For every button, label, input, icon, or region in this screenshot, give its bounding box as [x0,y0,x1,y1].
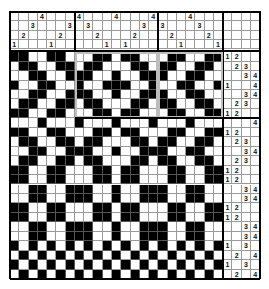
drawdown-cell [149,81,158,90]
drawdown-cell [195,175,204,184]
threading-cell: 4 [75,12,84,21]
drawdown-cell [38,109,47,118]
tieup-cell [232,12,241,21]
treadling-cell: 3 [242,241,251,250]
treadling-cell: 2 [232,213,241,222]
drawdown-cell [103,52,112,61]
drawdown-cell [103,147,112,156]
drawdown-cell [140,241,149,250]
drawdown-cell [186,81,195,90]
drawdown-cell [66,241,75,250]
threading-cell: 4 [186,12,195,21]
threading-cell [168,12,177,21]
drawdown-cell [158,194,167,203]
drawdown-cell [205,222,214,231]
drawdown-cell [84,99,93,108]
drawdown-cell [149,156,158,165]
drawdown-cell [38,222,47,231]
drawdown-cell [19,109,28,118]
drawdown-cell [56,222,65,231]
drawdown-cell [103,90,112,99]
drawdown-cell [56,260,65,269]
drawdown-cell [158,166,167,175]
drawdown-cell [10,52,19,61]
drawdown-cell [195,137,204,146]
drawdown-cell [84,213,93,222]
treadling-cell [232,232,241,241]
drawdown-cell [186,156,195,165]
drawdown-cell [158,175,167,184]
drawdown-cell [38,194,47,203]
tieup-cell [223,31,232,40]
drawdown-cell [112,52,121,61]
drawdown-cell [186,241,195,250]
drawdown-cell [140,213,149,222]
treadling-cell: 2 [232,62,241,71]
drawdown-cell [19,118,28,127]
drawdown-cell [205,203,214,212]
drawdown-cell [131,71,140,80]
threading-cell [112,21,121,30]
threading-cell [38,31,47,40]
drawdown-cell [93,52,102,61]
drawdown-cell [195,185,204,194]
drawdown-cell [186,166,195,175]
threading-cell [168,40,177,49]
threading-cell: 3 [84,21,93,30]
drawdown-cell [121,90,130,99]
drawdown-cell [103,194,112,203]
drawdown-cell [56,147,65,156]
drawdown-cell [195,213,204,222]
threading-cell: 2 [19,31,28,40]
drawdown-cell [29,232,38,241]
drawdown-cell [103,203,112,212]
drawdown-cell [205,185,214,194]
drawdown-cell [56,90,65,99]
drawdown-cell [29,52,38,61]
drawdown-cell [38,62,47,71]
drawdown-cell [177,118,186,127]
drawdown-cell [66,52,75,61]
drawdown-cell [103,99,112,108]
treadling-cell [232,241,241,250]
treadling-cell [232,194,241,203]
drawdown-cell [93,147,102,156]
threading-cell [84,12,93,21]
drawdown-cell [66,118,75,127]
drawdown-cell [205,118,214,127]
drawdown-cell [66,81,75,90]
drawdown-cell [195,81,204,90]
drawdown-cell [140,232,149,241]
drawdown-cell [10,185,19,194]
drawdown-cell [19,99,28,108]
drawdown-cell [112,71,121,80]
drawdown-cell [75,99,84,108]
drawdown-cell [186,194,195,203]
threading-cell: 2 [131,31,140,40]
drawdown-cell [168,213,177,222]
drawdown-cell [47,213,56,222]
threading-cell [140,12,149,21]
drawdown-cell [158,62,167,71]
drawdown-cell [158,203,167,212]
drawdown-cell [121,260,130,269]
drawdown-cell [186,213,195,222]
drawdown-cell [121,128,130,137]
drawdown-cell [103,71,112,80]
treadling-cell [242,81,251,90]
threading-cell [47,12,56,21]
drawdown-cell [121,137,130,146]
drawdown-cell [121,62,130,71]
drawdown-cell [56,194,65,203]
drawdown-cell [56,166,65,175]
drawdown-cell [121,156,130,165]
treadling-cell: 3 [242,147,251,156]
drawdown-cell [195,251,204,260]
drawdown-cell [158,260,167,269]
drawdown-cell [75,175,84,184]
drawdown-cell [56,62,65,71]
drawdown-cell [205,137,214,146]
block-divider [74,11,76,51]
drawdown-cell [140,147,149,156]
drawdown-cell [205,232,214,241]
